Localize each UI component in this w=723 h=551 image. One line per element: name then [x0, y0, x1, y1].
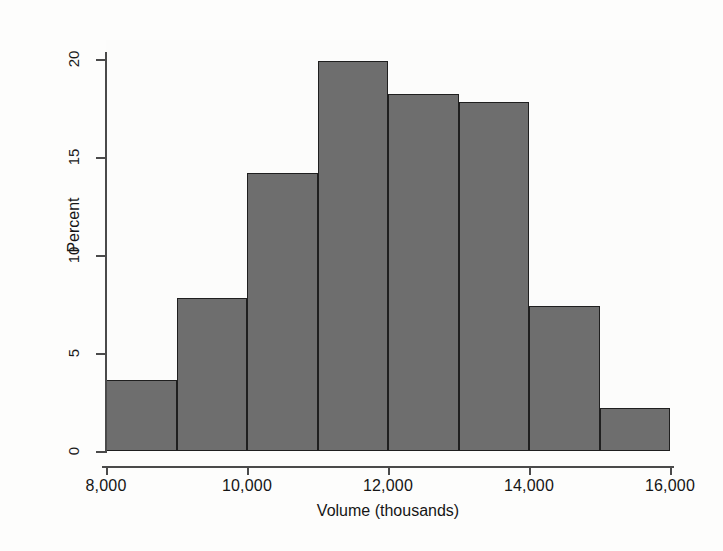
x-axis-tick-label: 14,000: [484, 477, 574, 495]
x-axis-tick-label: 8,000: [61, 477, 151, 495]
y-axis-title: Percent: [64, 165, 84, 285]
y-axis-tick-label: 5: [65, 335, 83, 371]
histogram-bar: [177, 298, 248, 451]
y-axis-tick: [96, 451, 105, 453]
plot-area: [106, 40, 670, 451]
histogram-bar: [600, 408, 671, 451]
histogram-bar: [388, 94, 459, 451]
histogram-bar: [529, 306, 600, 451]
x-axis-tick-label: 16,000: [625, 477, 715, 495]
y-axis-tick-label: 20: [65, 41, 83, 77]
histogram-bar: [106, 380, 177, 451]
y-axis-tick: [96, 255, 105, 257]
x-axis-tick: [247, 466, 249, 475]
y-axis-tick: [96, 353, 105, 355]
y-axis-line: [105, 52, 107, 453]
y-axis-tick: [96, 59, 105, 61]
histogram-bar: [247, 173, 318, 451]
x-axis-tick: [388, 466, 390, 475]
x-axis-tick: [106, 466, 108, 475]
histogram-figure: 05101520 8,00010,00012,00014,00016,000 P…: [0, 0, 723, 551]
y-axis-tick-label: 0: [65, 433, 83, 469]
x-axis-tick: [529, 466, 531, 475]
bar-series: [106, 40, 670, 451]
x-axis-tick-label: 12,000: [343, 477, 433, 495]
histogram-bar: [318, 61, 389, 451]
x-axis-tick-label: 10,000: [202, 477, 292, 495]
x-axis-tick: [670, 466, 672, 475]
y-axis-tick: [96, 157, 105, 159]
histogram-bar: [459, 102, 530, 451]
x-axis-title: Volume (thousands): [106, 502, 670, 520]
